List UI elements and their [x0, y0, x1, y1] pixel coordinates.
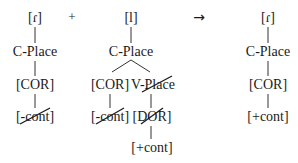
left-segment: [ɾ]	[28, 10, 42, 26]
left-cor-node: [COR]	[16, 77, 54, 93]
middle-dor-cont-feature: [+cont]	[131, 140, 172, 156]
middle-cor-cont-feature: [-cont]	[91, 109, 129, 125]
arrow-icon: →	[193, 9, 205, 25]
plus-operator: +	[68, 9, 75, 25]
right-cor-node: [COR]	[249, 77, 287, 93]
middle-vplace-node: V-Place	[131, 77, 175, 93]
middle-cor-node: [COR]	[91, 77, 129, 93]
left-cplace-node: C-Place	[13, 44, 57, 60]
left-cont-feature: [-cont]	[16, 109, 54, 125]
right-cplace-node: C-Place	[246, 44, 290, 60]
middle-dor-node: [DOR]	[133, 109, 172, 125]
middle-cplace-node: C-Place	[109, 44, 153, 60]
right-cont-feature: [+cont]	[247, 109, 288, 125]
right-segment: [ɾ]	[261, 10, 275, 26]
middle-segment: [l]	[124, 10, 137, 26]
